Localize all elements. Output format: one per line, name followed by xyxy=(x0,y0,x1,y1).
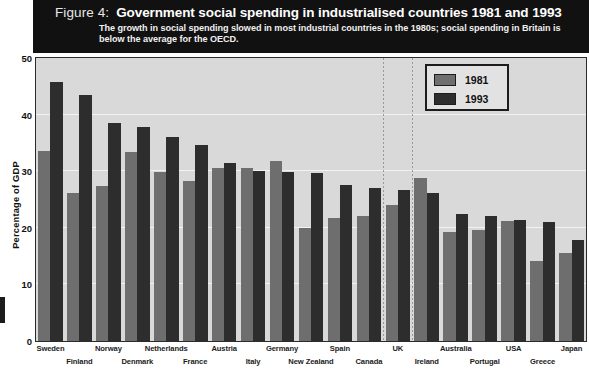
x-axis-label-canada: Canada xyxy=(355,357,382,366)
bar xyxy=(530,261,542,341)
bar xyxy=(386,205,398,341)
x-axis-label-ireland: Ireland xyxy=(415,357,439,366)
bar xyxy=(67,193,79,341)
legend-label-1981: 1981 xyxy=(465,74,488,86)
bar xyxy=(79,95,91,341)
bar xyxy=(357,216,369,341)
x-axis-label-portugal: Portugal xyxy=(470,357,500,366)
bar xyxy=(50,82,62,341)
x-axis-label-uk: UK xyxy=(392,344,403,353)
x-axis-label-italy: Italy xyxy=(246,357,261,366)
bar xyxy=(224,163,236,341)
bar xyxy=(195,145,207,341)
figure-header: Figure 4: Government social spending in … xyxy=(33,0,589,53)
legend-item-1981: 1981 xyxy=(434,72,500,88)
legend-item-1993: 1993 xyxy=(434,91,500,107)
bar xyxy=(282,172,294,341)
x-axis-label-france: France xyxy=(183,357,207,366)
bar xyxy=(485,216,497,341)
y-axis-label: Percentage of GDP xyxy=(11,135,21,275)
x-axis-label-greece: Greece xyxy=(530,357,555,366)
bar xyxy=(414,178,426,341)
y-axis-tick: 10 xyxy=(6,279,32,290)
figure-subtitle: The growth in social spending slowed in … xyxy=(99,23,567,46)
bar xyxy=(38,151,50,341)
bar xyxy=(427,193,439,341)
bar xyxy=(501,221,513,341)
x-axis-label-new-zealand: New Zealand xyxy=(288,357,333,366)
bar xyxy=(543,222,555,341)
x-axis-label-denmark: Denmark xyxy=(121,357,153,366)
y-axis-tick: 20 xyxy=(6,222,32,233)
bar xyxy=(311,173,323,341)
x-axis-label-usa: USA xyxy=(506,344,522,353)
x-axis-label-netherlands: Netherlands xyxy=(145,344,188,353)
bar xyxy=(472,230,484,341)
legend-swatch-1981 xyxy=(434,74,456,86)
bar xyxy=(241,168,253,341)
bar xyxy=(456,214,468,341)
legend-label-1993: 1993 xyxy=(465,93,488,105)
chart-legend: 1981 1993 xyxy=(425,64,509,111)
left-edge-mark xyxy=(0,297,5,323)
bar xyxy=(212,168,224,341)
bar xyxy=(154,172,166,341)
bar xyxy=(572,240,584,341)
bar xyxy=(398,190,410,341)
bar xyxy=(559,253,571,341)
x-axis-label-norway: Norway xyxy=(95,344,122,353)
bar xyxy=(183,181,195,341)
y-axis: Percentage of GDP 01020304050 xyxy=(2,0,32,378)
bar xyxy=(270,161,282,341)
page-title: Government social spending in industrial… xyxy=(116,5,562,20)
legend-swatch-1993 xyxy=(434,93,456,105)
bar xyxy=(369,188,381,341)
title-line: Figure 4: Government social spending in … xyxy=(55,5,581,20)
x-axis-label-finland: Finland xyxy=(66,357,92,366)
bar xyxy=(96,186,108,341)
x-axis-label-austria: Austria xyxy=(211,344,236,353)
x-axis-label-germany: Germany xyxy=(266,344,298,353)
bar xyxy=(166,137,178,341)
x-axis-label-spain: Spain xyxy=(330,344,350,353)
bar xyxy=(108,123,120,341)
bar xyxy=(340,185,352,341)
x-axis-label-sweden: Sweden xyxy=(36,344,64,353)
figure-number: Figure 4: xyxy=(55,5,109,20)
bar xyxy=(299,228,311,341)
y-axis-tick: 30 xyxy=(6,166,32,177)
x-axis-label-australia: Australia xyxy=(440,344,472,353)
bar xyxy=(253,171,265,341)
x-axis-labels: SwedenFinlandNorwayDenmarkNetherlandsFra… xyxy=(0,343,589,378)
x-axis-label-japan: Japan xyxy=(561,344,582,353)
figure-social-spending: Figure 4: Government social spending in … xyxy=(0,0,589,378)
bar xyxy=(514,220,526,341)
header-text-block: Figure 4: Government social spending in … xyxy=(55,5,581,46)
bar xyxy=(125,152,137,341)
y-axis-tick: 40 xyxy=(6,109,32,120)
y-axis-tick: 50 xyxy=(6,53,32,64)
bar xyxy=(137,127,149,342)
bar xyxy=(328,218,340,341)
bar xyxy=(443,232,455,341)
